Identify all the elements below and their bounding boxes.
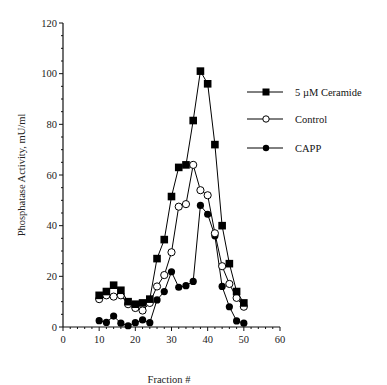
series-layer [95, 67, 247, 329]
open-circle-marker-icon [110, 293, 117, 300]
open-circle-marker-icon [211, 230, 218, 237]
square-marker-icon [218, 222, 226, 230]
filled-circle-marker-icon [240, 320, 247, 327]
filled-circle-marker-icon [96, 317, 103, 324]
y-axis-title: Phosphatase Activity, mU/ml [16, 114, 27, 237]
x-tick-label: 40 [202, 334, 213, 345]
legend-label: 5 µM Ceramide [295, 87, 362, 98]
y-tick-label: 0 [52, 322, 57, 333]
square-marker-icon [160, 236, 168, 244]
filled-circle-marker-icon [139, 316, 146, 323]
filled-circle-marker-icon [110, 313, 117, 320]
filled-circle-marker-icon [146, 319, 153, 326]
x-tick-label: 0 [60, 334, 65, 345]
legend-label: Control [295, 114, 327, 125]
legend: 5 µM CeramideControlCAPP [247, 87, 362, 154]
square-marker-icon [103, 288, 111, 296]
square-marker-icon [233, 288, 241, 296]
square-marker-icon [110, 281, 118, 289]
open-circle-marker-icon [153, 283, 160, 290]
open-circle-marker-icon [219, 263, 226, 270]
square-marker-icon [146, 295, 154, 303]
open-circle-marker-icon [226, 280, 233, 287]
x-axis-title: Fraction # [148, 374, 192, 385]
open-circle-marker-icon [204, 192, 211, 199]
open-circle-marker-icon [139, 307, 146, 314]
x-tick-label: 20 [130, 334, 141, 345]
filled-circle-marker-icon [168, 268, 175, 275]
filled-circle-marker-icon [190, 278, 197, 285]
open-circle-marker-icon [190, 161, 197, 168]
square-marker-icon [139, 299, 147, 307]
square-marker-icon [204, 80, 212, 88]
filled-circle-marker-icon [161, 288, 168, 295]
y-tick-label: 80 [47, 119, 58, 130]
square-marker-icon [211, 141, 219, 149]
filled-circle-marker-icon [175, 284, 182, 291]
square-marker-icon [263, 89, 270, 96]
y-tick-label: 120 [41, 18, 57, 29]
legend-item: 5 µM Ceramide [247, 87, 362, 98]
y-tick-label: 20 [47, 271, 58, 282]
square-marker-icon [175, 164, 183, 172]
filled-circle-marker-icon [132, 319, 139, 326]
x-tick-label: 50 [239, 334, 250, 345]
square-marker-icon [240, 299, 248, 307]
filled-circle-marker-icon [153, 296, 160, 303]
square-marker-icon [117, 286, 125, 294]
fraction-activity-chart: 0204060801001200102030405060 5 µM Cerami… [0, 0, 387, 385]
x-tick-label: 60 [275, 334, 286, 345]
y-tick-label: 60 [47, 170, 58, 181]
square-marker-icon [226, 260, 234, 268]
filled-circle-marker-icon [233, 317, 240, 324]
filled-circle-marker-icon [197, 202, 204, 209]
open-circle-marker-icon [161, 271, 168, 278]
square-marker-icon [197, 67, 205, 75]
square-marker-icon [153, 255, 161, 263]
axes: 0204060801001200102030405060 [41, 18, 285, 346]
y-tick-label: 100 [41, 68, 57, 79]
legend-label: CAPP [295, 143, 321, 154]
square-marker-icon [95, 292, 103, 300]
filled-circle-marker-icon [125, 322, 132, 329]
open-circle-marker-icon [175, 203, 182, 210]
open-circle-marker-icon [182, 201, 189, 208]
filled-circle-marker-icon [204, 211, 211, 218]
filled-circle-marker-icon [182, 282, 189, 289]
legend-item: Control [247, 114, 327, 125]
open-circle-marker-icon [263, 116, 269, 122]
x-tick-label: 10 [94, 334, 105, 345]
filled-circle-marker-icon [117, 320, 124, 327]
filled-circle-marker-icon [219, 283, 226, 290]
y-tick-label: 40 [47, 220, 58, 231]
open-circle-marker-icon [197, 187, 204, 194]
square-marker-icon [189, 117, 197, 125]
x-tick-label: 30 [166, 334, 177, 345]
square-marker-icon [124, 298, 132, 306]
legend-item: CAPP [247, 143, 321, 154]
filled-circle-marker-icon [226, 303, 233, 310]
square-marker-icon [168, 193, 176, 201]
open-circle-marker-icon [168, 249, 175, 256]
filled-circle-marker-icon [103, 319, 110, 326]
square-marker-icon [132, 300, 140, 308]
square-marker-icon [182, 161, 190, 169]
filled-circle-marker-icon [263, 145, 269, 151]
